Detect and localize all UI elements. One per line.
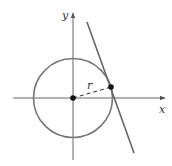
circle-tangent-diagram: y x r bbox=[0, 0, 172, 166]
tangency-point bbox=[108, 84, 114, 90]
y-axis-label: y bbox=[61, 9, 69, 22]
center-point bbox=[70, 95, 76, 101]
x-axis-label: x bbox=[159, 103, 166, 116]
radius-label: r bbox=[87, 79, 93, 92]
